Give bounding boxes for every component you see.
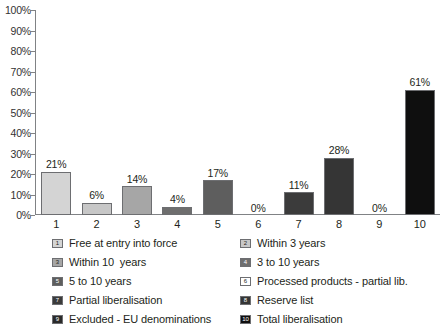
- x-axis-category-label: 8: [319, 217, 359, 231]
- y-axis-tick: [30, 72, 35, 73]
- legend-swatch: 7: [52, 296, 63, 305]
- legend-item: 8Reserve list: [240, 291, 447, 310]
- bar: [82, 203, 112, 215]
- y-axis-tick: [30, 195, 35, 196]
- y-axis-tick-label: 90%: [11, 25, 31, 36]
- y-axis-tick-label: 40%: [11, 128, 31, 139]
- legend-label: Reserve list: [257, 294, 313, 307]
- legend-label: Within 10 years: [69, 256, 146, 269]
- bar-group: 21%: [41, 10, 71, 215]
- legend-column-left: 1Free at entry into force3Within 10 year…: [52, 234, 242, 329]
- y-axis-tick-label: 60%: [11, 87, 31, 98]
- legend-label: Total liberalisation: [257, 313, 342, 326]
- x-axis-category-label: 5: [198, 217, 238, 231]
- y-axis-tick-label: 30%: [11, 148, 31, 159]
- bar-value-label: 6%: [89, 190, 104, 201]
- legend-label: Free at entry into force: [69, 237, 177, 250]
- bar-value-label: 17%: [208, 168, 228, 179]
- legend-item: 43 to 10 years: [240, 253, 447, 272]
- bar-group: 14%: [122, 10, 152, 215]
- legend-swatch: 8: [240, 296, 251, 305]
- legend-item: 9Excluded - EU denominations: [52, 310, 242, 329]
- y-axis-tick: [30, 51, 35, 52]
- y-axis-labels: 0%10%20%30%40%50%60%70%80%90%100%: [0, 4, 31, 215]
- bar-value-label: 14%: [127, 174, 147, 185]
- bar-group: 4%: [162, 10, 192, 215]
- legend-item: 6Processed products - partial lib.: [240, 272, 447, 291]
- bar-group: 11%: [284, 10, 314, 215]
- bar: [162, 207, 192, 215]
- legend-item: 7Partial liberalisation: [52, 291, 242, 310]
- y-axis-tick-label: 20%: [11, 169, 31, 180]
- legend-swatch: 6: [240, 277, 251, 286]
- chart-legend: 1Free at entry into force3Within 10 year…: [0, 234, 447, 330]
- bar: [324, 158, 354, 215]
- bar-value-label: 11%: [289, 180, 309, 191]
- x-axis-category-label: 3: [117, 217, 157, 231]
- legend-swatch: 5: [52, 277, 63, 286]
- legend-item: 1Free at entry into force: [52, 234, 242, 253]
- legend-swatch: 2: [240, 239, 251, 248]
- legend-swatch: 3: [52, 258, 63, 267]
- y-axis-tick: [30, 31, 35, 32]
- x-axis-category-label: 4: [157, 217, 197, 231]
- y-axis-tick: [30, 154, 35, 155]
- x-axis-category-label: 9: [359, 217, 399, 231]
- legend-item: 3Within 10 years: [52, 253, 242, 272]
- legend-label: 5 to 10 years: [69, 275, 131, 288]
- y-axis-tick: [30, 133, 35, 134]
- bar-value-label: 21%: [46, 159, 66, 170]
- x-axis-category-label: 7: [278, 217, 318, 231]
- legend-label: Processed products - partial lib.: [257, 275, 408, 288]
- legend-label: Partial liberalisation: [69, 294, 162, 307]
- plot-area: 0%10%20%30%40%50%60%70%80%90%100% 21%6%1…: [0, 4, 447, 232]
- bar: [405, 90, 435, 215]
- bar: [41, 172, 71, 215]
- legend-column-right: 2Within 3 years43 to 10 years6Processed …: [240, 234, 447, 329]
- x-axis-category-label: 2: [76, 217, 116, 231]
- y-axis-tick: [30, 92, 35, 93]
- legend-swatch: 10: [240, 315, 251, 324]
- bar-group: 61%: [405, 10, 435, 215]
- bar-value-label: 28%: [329, 145, 349, 156]
- y-axis-tick-label: 0%: [16, 210, 31, 221]
- y-axis-tick-label: 50%: [11, 107, 31, 118]
- x-axis-category-label: 6: [238, 217, 278, 231]
- x-axis-labels: 12345678910: [36, 217, 440, 233]
- legend-item: 55 to 10 years: [52, 272, 242, 291]
- bar: [122, 186, 152, 215]
- bar-group: 17%: [203, 10, 233, 215]
- y-axis-tick: [30, 174, 35, 175]
- legend-swatch: 9: [52, 315, 63, 324]
- bar: [284, 192, 314, 215]
- legend-item: 2Within 3 years: [240, 234, 447, 253]
- x-axis-category-label: 1: [36, 217, 76, 231]
- y-axis-tick: [30, 113, 35, 114]
- bar-value-label: 0%: [372, 203, 387, 214]
- y-axis-tick: [30, 10, 35, 11]
- bars-container: 21%6%14%4%17%0%11%28%0%61%: [36, 10, 440, 215]
- legend-label: Within 3 years: [257, 237, 325, 250]
- legend-swatch: 1: [52, 239, 63, 248]
- bar: [203, 180, 233, 215]
- y-axis-tick-label: 10%: [11, 189, 31, 200]
- y-axis-tick-label: 70%: [11, 66, 31, 77]
- legend-item: 10Total liberalisation: [240, 310, 447, 329]
- x-axis-category-label: 10: [400, 217, 440, 231]
- legend-label: Excluded - EU denominations: [69, 313, 211, 326]
- bar-chart: 0%10%20%30%40%50%60%70%80%90%100% 21%6%1…: [0, 0, 447, 330]
- y-axis-tick-label: 100%: [5, 5, 31, 16]
- y-axis-tick: [30, 215, 35, 216]
- bar-value-label: 4%: [170, 194, 185, 205]
- bar-group: 0%: [243, 10, 273, 215]
- bar-group: 0%: [364, 10, 394, 215]
- bar-value-label: 61%: [410, 77, 430, 88]
- legend-label: 3 to 10 years: [257, 256, 319, 269]
- y-axis-tick-label: 80%: [11, 46, 31, 57]
- bar-group: 28%: [324, 10, 354, 215]
- bar-group: 6%: [82, 10, 112, 215]
- bar-value-label: 0%: [251, 203, 266, 214]
- legend-swatch: 4: [240, 258, 251, 267]
